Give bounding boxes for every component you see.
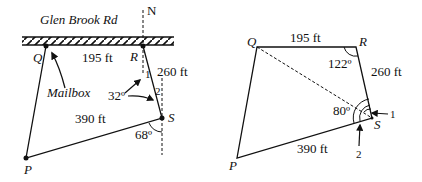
r-side-sp: 390 ft (297, 141, 328, 156)
r-mark-1: 1 (390, 108, 396, 120)
r-label-r: R (358, 34, 367, 49)
left-figure: Glen Brook Rd N Q R S P 195 ft 260 ft 39… (22, 3, 188, 177)
r-label-q: Q (247, 34, 257, 49)
right-figure: Q R S P 195 ft 260 ft 390 ft 122º 80º 1 … (228, 30, 402, 173)
point-r (141, 44, 146, 49)
mailbox-arrow (52, 53, 65, 88)
label-s: S (168, 110, 175, 125)
angle-80-label: 80º (333, 103, 350, 118)
point-q (44, 44, 49, 49)
r-mark-2: 2 (356, 148, 362, 160)
road-label: Glen Brook Rd (40, 12, 118, 27)
road-hatch (22, 37, 174, 45)
point-s (160, 116, 165, 121)
r-label-s: S (374, 117, 381, 132)
r-side-rs: 260 ft (371, 64, 402, 79)
r-side-qr: 195 ft (290, 30, 321, 45)
point-p (24, 156, 29, 161)
angle-122-label: 122º (328, 56, 352, 71)
angle-68-label: 68º (135, 127, 152, 142)
north-label: N (147, 3, 157, 18)
diagram-canvas: Glen Brook Rd N Q R S P 195 ft 260 ft 39… (0, 0, 422, 182)
side-qr: 195 ft (82, 50, 113, 65)
label-p: P (23, 162, 32, 177)
side-rs: 260 ft (157, 64, 188, 79)
angle-32-label: 32º (108, 88, 125, 103)
side-sp: 390 ft (75, 111, 106, 126)
label-q: Q (33, 50, 43, 65)
mark-1: 1 (145, 68, 151, 80)
r-label-p: P (228, 158, 237, 173)
mark-2: 2 (155, 85, 161, 97)
label-r: R (129, 49, 138, 64)
diagonal-qs (257, 47, 372, 118)
mailbox-label: Mailbox (46, 85, 91, 100)
